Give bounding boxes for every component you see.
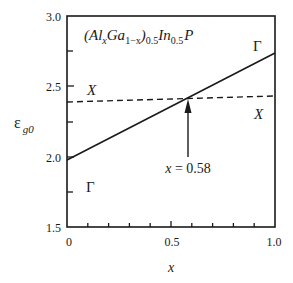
arrow-head-icon <box>185 99 192 113</box>
y-tick-label: 2.0 <box>46 151 61 165</box>
chart: 3.0 2.5 2.0 1.5 0 0.5 1.0 x εg0 (AlxGa1−… <box>0 0 293 283</box>
x-tick-label: 1.0 <box>267 235 282 249</box>
x-label-right: X <box>253 106 264 122</box>
x-tick-label: 0 <box>66 235 72 249</box>
gamma-line <box>67 53 275 160</box>
y-tick-label: 2.5 <box>46 80 61 94</box>
gamma-label-left: Γ <box>86 179 95 195</box>
y-axis-label: εg0 <box>14 114 34 135</box>
y-ticks <box>67 51 74 192</box>
x-valley-line <box>67 96 275 102</box>
y-tick-label: 1.5 <box>46 221 61 235</box>
x-tick-label: 0.5 <box>165 235 180 249</box>
plot-frame <box>67 16 275 227</box>
x-axis-label: x <box>167 260 175 275</box>
y-tick-label: 3.0 <box>46 10 61 24</box>
x-ticks <box>88 221 254 227</box>
gamma-label-right: Γ <box>253 38 262 54</box>
chart-title: (AlxGa1−x)0.5In0.5P <box>84 27 193 46</box>
crossover-label: x = 0.58 <box>164 161 211 176</box>
x-label-left: X <box>86 82 97 98</box>
